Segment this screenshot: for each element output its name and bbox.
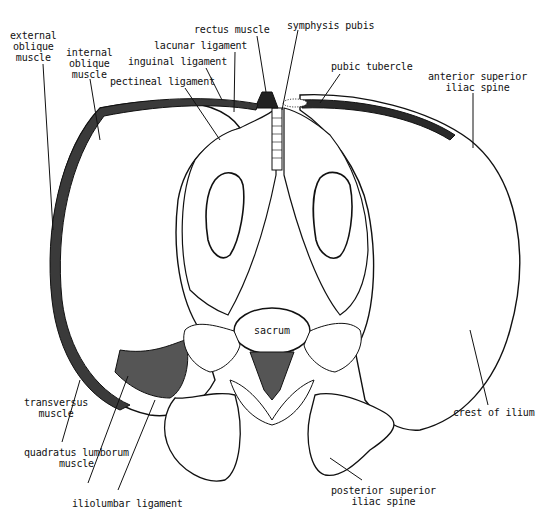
pubic-tubercle — [283, 99, 307, 107]
right-obturator-foramen — [313, 172, 352, 258]
label-transversus-muscle: transversus muscle — [24, 397, 88, 419]
symphysis-pubis — [272, 108, 282, 170]
left-posterior-ilium — [165, 394, 241, 481]
label-symphysis-pubis: symphysis pubis — [287, 20, 374, 31]
label-lacunar-ligament: lacunar ligament — [154, 40, 247, 51]
label-internal-oblique-muscle: internal oblique muscle — [66, 47, 113, 80]
label-rectus-muscle: rectus muscle — [194, 24, 270, 35]
label-quadratus-lumborum-muscle: quadratus lumborum muscle — [24, 447, 129, 469]
label-external-oblique-muscle: external oblique muscle — [10, 30, 57, 63]
right-sacral-ala — [304, 323, 361, 372]
label-anterior-superior-iliac-spine: anterior superior iliac spine — [428, 71, 527, 93]
label-inguinal-ligament: inguinal ligament — [128, 56, 227, 67]
label-pectineal-ligament: pectineal ligament — [110, 76, 215, 87]
label-iliolumbar-ligament: iliolumbar ligament — [72, 498, 183, 509]
label-pubic-tubercle: pubic tubercle — [331, 61, 413, 72]
sacral-canal — [250, 352, 294, 400]
sacrum-label: sacrum — [254, 325, 290, 336]
rectus-muscle — [255, 92, 278, 108]
label-posterior-superior-iliac-spine: posterior superior iliac spine — [331, 485, 436, 507]
label-crest-of-ilium: crest of ilium — [453, 407, 535, 418]
